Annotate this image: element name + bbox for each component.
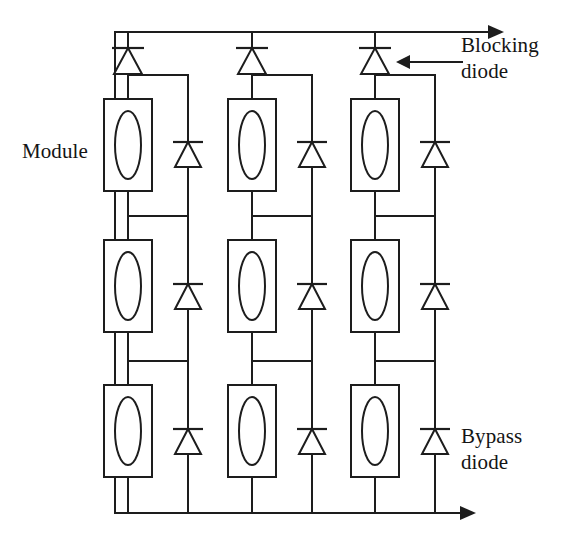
bypass-diode-1-3 [173, 429, 203, 454]
top-bus-rail [115, 25, 504, 39]
module-2-1 [228, 99, 276, 191]
module-1-1 [104, 99, 152, 191]
bypass-diode-label-line2: diode [461, 450, 508, 474]
module-3-1 [351, 99, 399, 191]
blocking-diode-1 [112, 48, 144, 74]
module-3-2 [351, 240, 399, 332]
blocking-diode-2 [236, 48, 268, 74]
pv-array-schematic: Module Blocking diode Bypass diode [0, 0, 566, 543]
bypass-diode-1-1 [173, 142, 203, 167]
bypass-diode-label-line1: Bypass [461, 424, 522, 448]
bypass-diode-2-3 [297, 429, 327, 454]
arrow-left-icon-blocking [396, 55, 410, 69]
bypass-diode-1-2 [173, 284, 203, 309]
string-group-1 [104, 32, 203, 513]
bypass-diode-3-2 [420, 284, 450, 309]
string-group-2 [228, 32, 327, 513]
string-group-3 [351, 32, 450, 513]
module-label: Module [22, 139, 88, 163]
module-2-3 [228, 385, 276, 477]
module-3-3 [351, 385, 399, 477]
circuit-diagram-container: Module Blocking diode Bypass diode [0, 0, 566, 543]
bypass-diode-2-1 [297, 142, 327, 167]
blocking-diode-callout [396, 55, 462, 69]
bottom-bus-rail [115, 506, 476, 520]
bypass-diode-2-2 [297, 284, 327, 309]
module-2-2 [228, 240, 276, 332]
blocking-diode-3 [359, 48, 391, 74]
module-1-2 [104, 240, 152, 332]
module-1-3 [104, 385, 152, 477]
blocking-diode-label-line1: Blocking [461, 33, 539, 57]
arrow-right-icon-bottom [460, 506, 476, 520]
bypass-diode-3-3 [420, 429, 450, 454]
blocking-diode-label-line2: diode [461, 59, 508, 83]
bypass-diode-3-1 [420, 142, 450, 167]
